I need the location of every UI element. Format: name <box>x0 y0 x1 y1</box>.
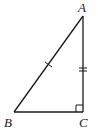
vertex-label-a: A <box>77 0 86 15</box>
vertex-label-b: B <box>4 115 12 130</box>
vertex-label-c: C <box>79 115 88 130</box>
triangle-diagram: A B C <box>0 0 98 137</box>
right-angle-marker <box>76 105 83 112</box>
tick-mark-ab <box>45 62 52 67</box>
